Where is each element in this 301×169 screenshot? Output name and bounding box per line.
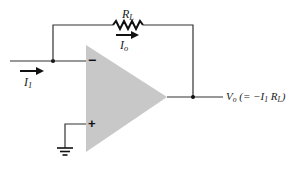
- output-eq-open: (= −I: [237, 90, 265, 102]
- feedback-current-label-sub: o: [124, 44, 128, 53]
- resistor-label: RL: [122, 8, 134, 23]
- noninverting-input-sign: +: [88, 117, 96, 130]
- feedback-wire-left: [53, 25, 113, 61]
- resistor-label-sub: L: [129, 13, 134, 22]
- feedback-current-label: Io: [120, 39, 128, 54]
- input-current-label: I1: [24, 76, 32, 91]
- output-junction-dot: [191, 95, 195, 99]
- inverting-input-sign: −: [88, 53, 96, 67]
- op-amp-circuit-diagram: − + RL Io I1 Vo (= −I1 RL): [0, 0, 301, 169]
- output-v: V: [226, 90, 233, 102]
- opamp-triangle: [86, 45, 167, 152]
- input-current-label-sub: 1: [28, 81, 32, 90]
- ground-icon: [57, 148, 73, 155]
- circuit-schematic: [0, 0, 301, 169]
- output-eq-close: ): [282, 90, 286, 102]
- ground-wire: [65, 124, 86, 148]
- feedback-wire-right: [143, 25, 193, 97]
- output-voltage-label: Vo (= −I1 RL): [226, 91, 286, 104]
- output-eq-r: R: [268, 90, 277, 102]
- input-current-arrow-icon: [20, 67, 44, 75]
